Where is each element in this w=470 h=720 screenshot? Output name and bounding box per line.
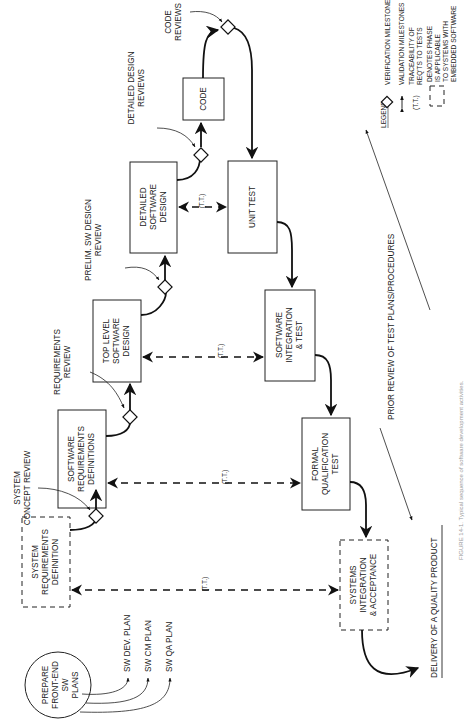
svg-text:SW: SW [61,678,70,691]
software-requirements-definitions-node: SOFTWARE REQUIREMENTS DEFINITIONS [58,410,106,508]
verification-milestone-code-review [221,20,235,34]
figure-caption: FIGURE 14-1. Typical sequence of softwar… [458,380,464,560]
software-development-sequence-diagram: PREPARE FRONT-END SW PLANS SYSTEM REQUIR… [0,0,470,720]
svg-text:TEST: TEST [331,454,340,475]
svg-text:PRELIM. SW DESIGN: PRELIM. SW DESIGN [84,199,93,281]
formal-qualification-test-node: FORMAL QUALIFICATION TEST [302,418,350,510]
svg-text:UNIT TEST: UNIT TEST [248,186,257,228]
verification-milestone-requirements [123,410,137,424]
svg-text:DETAILED: DETAILED [139,187,148,227]
svg-text:PLANS: PLANS [71,671,80,698]
code-reviews-label: CODE REVIEWS [164,3,183,41]
svg-text:CONCEPT REVIEW: CONCEPT REVIEW [23,451,32,526]
svg-text:TOP LEVEL: TOP LEVEL [102,318,111,363]
svg-text:DESIGN: DESIGN [159,191,168,222]
svg-text:FRONT-END: FRONT-END [51,661,60,709]
svg-text:SOFTWARE: SOFTWARE [67,435,76,482]
svg-text:REQUIREMENTS: REQUIREMENTS [41,528,50,594]
legend-dashed-box-icon [430,86,444,106]
unit-test-node: UNIT TEST [228,161,277,253]
requirements-review-label: REQUIREMENTS REVIEW [53,328,72,394]
svg-text:SOFTWARE: SOFTWARE [112,317,121,364]
svg-text:REQ'TS TO TESTS: REQ'TS TO TESTS [416,27,424,85]
traceability-links [72,207,338,590]
svg-text:FORMAL: FORMAL [311,446,320,481]
svg-text:TRACEABILITY OF: TRACEABILITY OF [408,27,415,85]
svg-text:CODE: CODE [164,10,173,34]
svg-text:PREPARE: PREPARE [41,665,50,704]
sw-cm-plan-label: SW CM PLAN [144,620,153,672]
tt-label: (T.T.) [201,577,209,592]
svg-text:REVIEW: REVIEW [63,346,72,379]
tt-label: (T.T.) [221,470,229,485]
svg-text:IS APPLICABLE: IS APPLICABLE [434,33,441,82]
svg-text:QUALIFICATION: QUALIFICATION [321,433,330,495]
prepare-front-end-sw-plans-node: PREPARE FRONT-END SW PLANS [25,652,91,718]
svg-text:VERIFICATION MILESTONES: VERIFICATION MILESTONES [384,0,391,85]
system-requirements-definition-node: SYSTEM REQUIREMENTS DEFINITION [22,517,70,607]
verification-milestone-system-concept [89,509,103,523]
svg-text:SOFTWARE: SOFTWARE [149,183,158,230]
plan-arrows [80,678,170,712]
svg-text:DETAILED DESIGN: DETAILED DESIGN [127,51,136,124]
svg-text:VALIDATION MILESTONES: VALIDATION MILESTONES [398,2,405,85]
prelim-sw-design-review-label: PRELIM. SW DESIGN REVIEW [84,199,103,281]
svg-text:INTEGRATION: INTEGRATION [285,307,294,362]
svg-text:SYSTEMS: SYSTEMS [349,565,358,605]
systems-integration-acceptance-node: SYSTEMS INTEGRATION & ACCEPTANCE [340,540,388,630]
top-level-software-design-node: TOP LEVEL SOFTWARE DESIGN [93,300,141,382]
svg-text:& TEST: & TEST [295,321,304,350]
sw-dev-plan-label: SW DEV. PLAN [123,614,132,672]
svg-text:& ACCEPTANCE: & ACCEPTANCE [369,553,378,616]
svg-text:CODE: CODE [199,87,208,111]
verification-milestone-prelim-design [158,280,172,294]
detailed-software-design-node: DETAILED SOFTWARE DESIGN [130,162,177,253]
validation-arrow-down [380,428,412,520]
svg-text:SYSTEM: SYSTEM [31,545,40,579]
software-integration-test-node: SOFTWARE INTEGRATION & TEST [265,290,315,381]
flow-to-delivery [362,630,418,674]
svg-text:EMBEDDED SOFTWARE: EMBEDDED SOFTWARE [450,5,457,82]
svg-text:REVIEWS: REVIEWS [174,3,183,41]
svg-text:DESIGN: DESIGN [122,325,131,356]
system-concept-review-label: SYSTEM CONCEPT REVIEW [13,451,32,526]
svg-text:DEFINITIONS: DEFINITIONS [87,433,96,485]
prior-review-annotation: PRIOR REVIEW OF TEST PLANS/PROCEDURES [387,233,396,420]
svg-text:REQUIREMENTS: REQUIREMENTS [77,425,86,491]
tt-label: (T.T.) [198,194,206,209]
svg-text:REVIEW: REVIEW [94,224,103,257]
sw-qa-plan-label: SW QA PLAN [165,621,174,672]
tt-label: (T.T.) [217,344,225,359]
svg-text:REQUIREMENTS: REQUIREMENTS [53,328,62,394]
svg-text:REVIEWS: REVIEWS [137,69,146,107]
validation-arrow-up [366,130,430,310]
svg-text:DENOTES PHASE: DENOTES PHASE [426,25,433,82]
legend-tt-symbol: (T.T.) [412,95,420,110]
legend: LEGEND VERIFICATION MILESTONES VALIDATIO… [380,0,457,128]
delivery-annotation: DELIVERY OF A QUALITY PRODUCT [430,537,439,678]
detailed-design-reviews-label: DETAILED DESIGN REVIEWS [127,51,146,124]
svg-text:SYSTEM: SYSTEM [13,471,22,505]
svg-text:TO SYSTEMS WITH: TO SYSTEMS WITH [442,21,449,82]
verification-milestone-detailed-design [194,148,208,162]
svg-text:SOFTWARE: SOFTWARE [275,311,284,358]
svg-text:INTEGRATION: INTEGRATION [359,557,368,612]
svg-text:DEFINITION: DEFINITION [51,539,60,585]
code-node: CODE [183,78,224,120]
